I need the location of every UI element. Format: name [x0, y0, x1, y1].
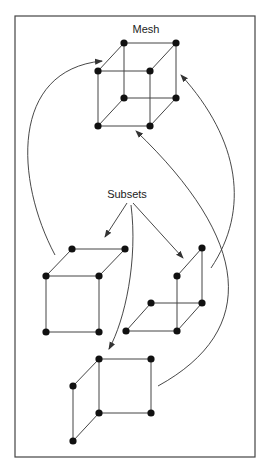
arrows: [28, 61, 235, 386]
subsets-label: Subsets: [107, 188, 147, 200]
right-subset: [126, 248, 202, 331]
bottom-subset: [73, 359, 151, 441]
subsets-to-left-arrow: [105, 203, 127, 237]
mesh-label: Mesh: [133, 23, 160, 35]
bottom-to-mesh-arrow: [136, 131, 228, 386]
mesh-cube: [98, 43, 176, 126]
left-to-mesh-arrow: [28, 61, 102, 255]
right-to-mesh-arrow: [181, 75, 234, 268]
left-subset: [46, 249, 125, 332]
frame: [15, 16, 255, 457]
subsets-to-right-arrow: [133, 203, 183, 258]
mesh-subsets-diagram: [0, 0, 269, 466]
